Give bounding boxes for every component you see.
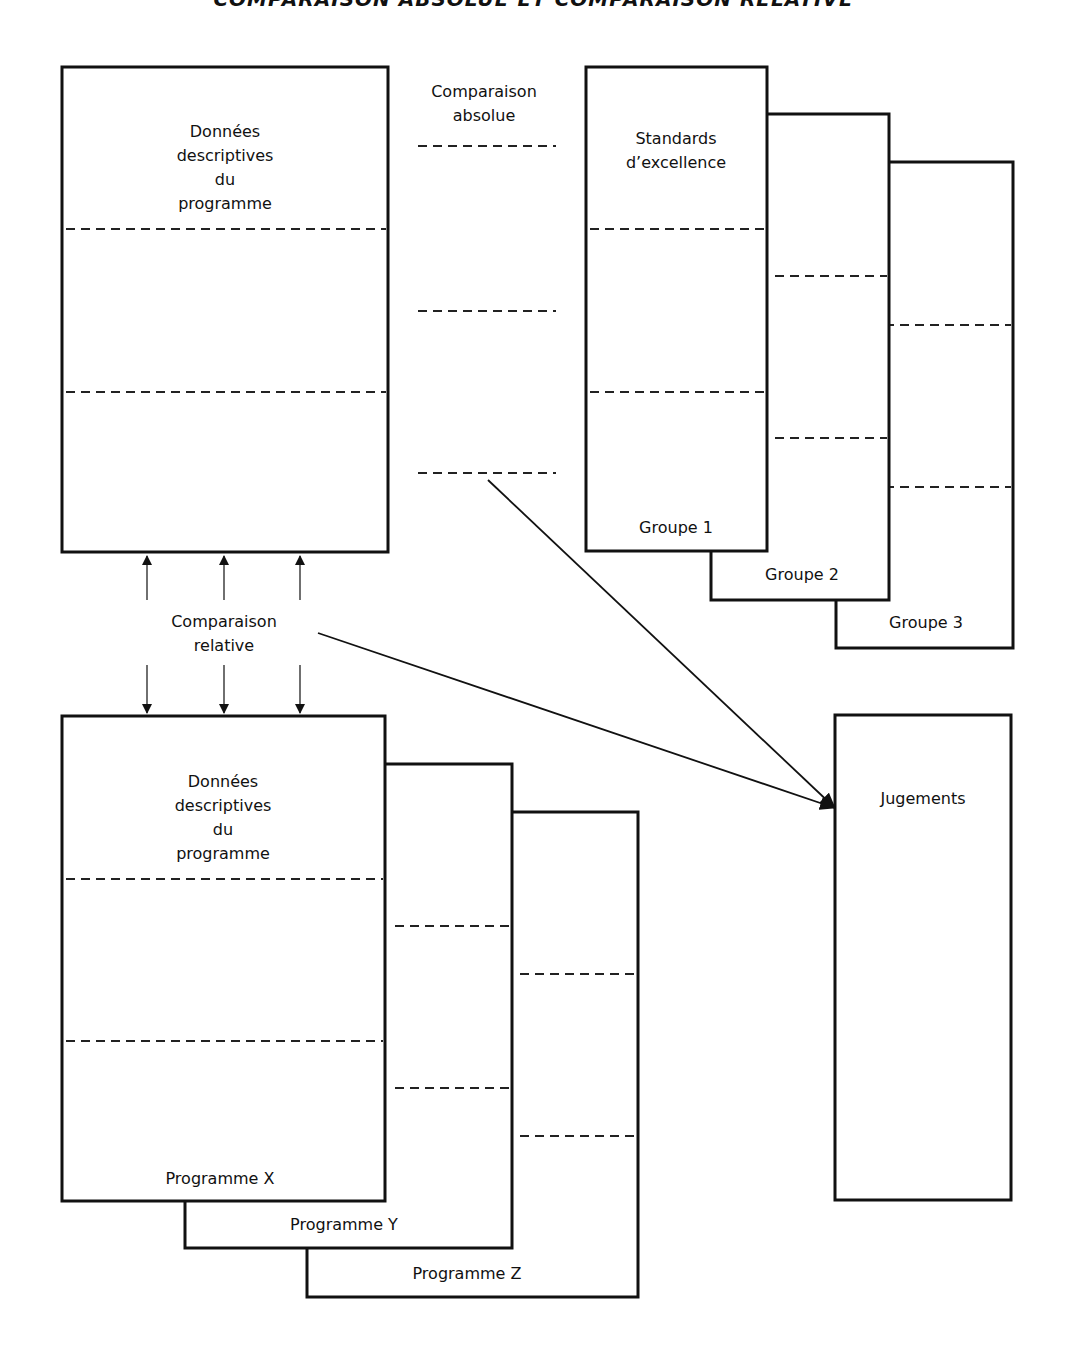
diagram-canvas bbox=[0, 0, 1067, 1353]
program-x-label: Programme X bbox=[150, 1167, 290, 1191]
program-z-label: Programme Z bbox=[397, 1262, 537, 1286]
group-2-label: Groupe 2 bbox=[752, 563, 852, 587]
relative-comparison-label: Comparaison relative bbox=[154, 610, 294, 658]
programs-data-label: Données descriptives du programme bbox=[163, 770, 283, 866]
judgements-label: Jugements bbox=[863, 787, 983, 811]
standards-label: Standards d’excellence bbox=[616, 127, 736, 175]
group-3-label: Groupe 3 bbox=[876, 611, 976, 635]
group-1-label: Groupe 1 bbox=[626, 516, 726, 540]
program-data-label: Données descriptives du programme bbox=[165, 120, 285, 216]
absolute-comparison-label: Comparaison absolue bbox=[414, 80, 554, 128]
program-y-label: Programme Y bbox=[274, 1213, 414, 1237]
absolute-comparison-dashes bbox=[418, 146, 556, 473]
